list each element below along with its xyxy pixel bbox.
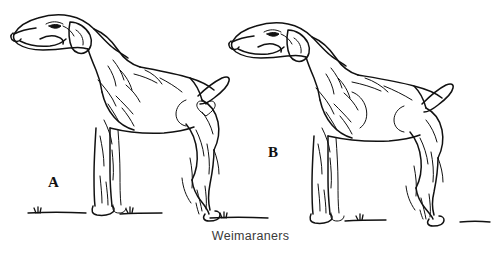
weimaraners-line-drawing — [0, 0, 501, 254]
figure-label-a: A — [48, 175, 59, 190]
figure-label-b: B — [268, 145, 278, 160]
dog-a-eye — [49, 25, 61, 29]
figure-weimaraners: A B Weimaraners — [0, 0, 501, 254]
dog-b-eye — [267, 33, 279, 37]
figure-caption: Weimaraners — [0, 229, 501, 243]
